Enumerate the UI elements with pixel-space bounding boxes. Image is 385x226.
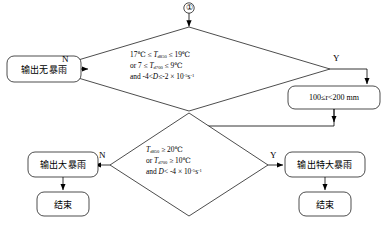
edge-decision1-yes bbox=[330, 69, 367, 84]
output-no-storm-label: 输出无暴雨 bbox=[7, 56, 81, 82]
edge-rainrange-to-decision2 bbox=[193, 109, 334, 126]
end-left-label: 结束 bbox=[37, 192, 89, 216]
decision1-condition-text: 17℃ ≤ Td850 ≤ 19℃ or 7 ≤ Td700 ≤ 9℃ and … bbox=[130, 50, 255, 82]
end-right-label: 结束 bbox=[299, 192, 351, 216]
output-heavy-storm-label: 输出大暴雨 bbox=[28, 152, 98, 177]
branch-label-decision2-no: N bbox=[99, 150, 106, 160]
output-extreme-storm-label: 输出特大暴雨 bbox=[285, 152, 365, 177]
rain-range-label: 100≤r<200 mm bbox=[288, 86, 380, 109]
decision1-line-1: 17℃ ≤ Td850 ≤ 19℃ bbox=[130, 50, 255, 61]
branch-label-decision2-yes: Y bbox=[270, 150, 277, 160]
decision2-condition-text: Td850 ≥ 20℃ or Td700 ≥ 10℃ and D< -4 × 1… bbox=[146, 145, 256, 177]
decision2-line-3: and D< -4 × 10-5s-1 bbox=[146, 167, 256, 178]
decision1-line-2: or 7 ≤ Td700 ≤ 9℃ bbox=[130, 61, 255, 72]
decision2-line-2: or Td700 ≥ 10℃ bbox=[146, 156, 256, 167]
decision2-line-1: Td850 ≥ 20℃ bbox=[146, 145, 256, 156]
branch-label-decision1-yes: Y bbox=[333, 53, 340, 63]
flowchart-canvas: ① 17℃ ≤ Td850 ≤ 19℃ or 7 ≤ Td700 ≤ 9℃ an… bbox=[0, 0, 385, 226]
start-marker-label: ① bbox=[181, 3, 197, 12]
decision1-line-3: and -4<D≤-2 × 10-5s-1 bbox=[130, 72, 255, 83]
